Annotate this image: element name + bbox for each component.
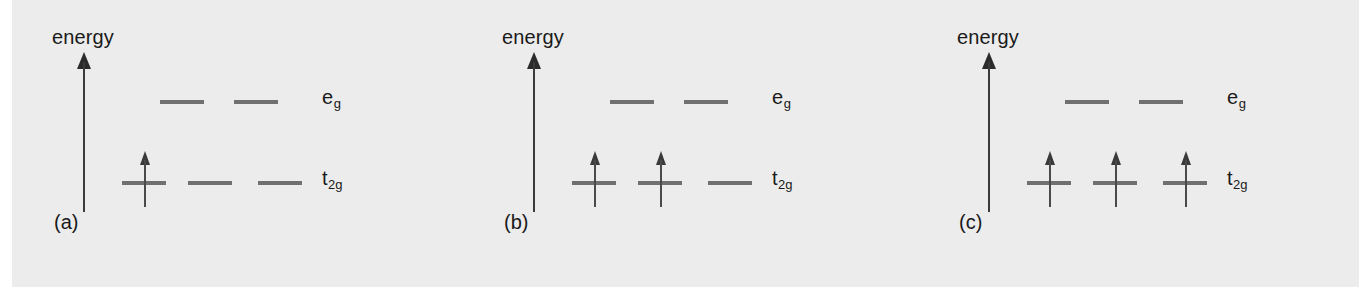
energy-axis-label-a: energy: [52, 26, 114, 49]
eg-set-label-sub-a: g: [334, 96, 341, 111]
t2g-set-label-text-c: t: [1227, 167, 1233, 189]
energy-axis-shaft: [533, 62, 535, 212]
energy-axis-b: [524, 52, 544, 212]
spin-arrow-shaft: [1049, 160, 1051, 207]
t2g-set-label-text-b: t: [772, 167, 778, 189]
energy-axis-shaft: [988, 62, 990, 212]
spin-arrow-shaft: [594, 160, 596, 207]
energy-axis-c: [979, 52, 999, 212]
electron-spin-up-arrow-t2g-1-b: [588, 151, 602, 207]
eg-set-label-text-a: e: [322, 86, 333, 108]
spin-arrow-shaft: [660, 160, 662, 207]
electron-spin-up-arrow-t2g-1-a: [138, 151, 152, 207]
t2g-set-label-sub-a: 2g: [328, 177, 342, 192]
t2g-orbital-line-3-b: [708, 181, 752, 185]
t2g-orbital-line-3-a: [258, 181, 302, 185]
eg-set-label-sub-c: g: [1239, 96, 1246, 111]
energy-axis-shaft: [83, 62, 85, 212]
eg-set-label-text-c: e: [1227, 86, 1238, 108]
panel-b: energy eg t2g (b): [462, 0, 917, 287]
energy-axis-label-c: energy: [957, 26, 1019, 49]
spin-arrow-shaft: [1185, 160, 1187, 207]
panel-letter-c: (c): [959, 211, 982, 234]
panel-letter-a: (a): [54, 211, 78, 234]
eg-orbital-line-1-c: [1065, 100, 1109, 104]
energy-axis-a: [74, 52, 94, 212]
eg-orbital-line-2-a: [234, 100, 278, 104]
eg-orbital-line-1-b: [610, 100, 654, 104]
eg-set-label-b: eg: [772, 86, 790, 109]
spin-arrow-shaft: [1115, 160, 1117, 207]
eg-set-label-a: eg: [322, 86, 340, 109]
eg-orbital-line-1-a: [160, 100, 204, 104]
electron-spin-up-arrow-t2g-3-c: [1179, 151, 1193, 207]
electron-spin-up-arrow-t2g-2-c: [1109, 151, 1123, 207]
crystal-field-splitting-figure: energy eg t2g (a) energy: [0, 0, 1365, 305]
panel-c: energy eg t2g (c): [917, 0, 1365, 287]
t2g-set-label-c: t2g: [1227, 167, 1247, 190]
eg-orbital-line-2-b: [684, 100, 728, 104]
t2g-orbital-line-2-a: [188, 181, 232, 185]
electron-spin-up-arrow-t2g-1-c: [1043, 151, 1057, 207]
t2g-set-label-sub-b: 2g: [778, 177, 792, 192]
t2g-set-label-sub-c: 2g: [1233, 177, 1247, 192]
panel-a: energy eg t2g (a): [12, 0, 467, 287]
eg-set-label-c: eg: [1227, 86, 1245, 109]
t2g-set-label-b: t2g: [772, 167, 792, 190]
energy-axis-label-b: energy: [502, 26, 564, 49]
electron-spin-up-arrow-t2g-2-b: [654, 151, 668, 207]
panel-letter-b: (b): [504, 211, 528, 234]
eg-set-label-text-b: e: [772, 86, 783, 108]
t2g-set-label-text-a: t: [322, 167, 328, 189]
eg-set-label-sub-b: g: [784, 96, 791, 111]
t2g-set-label-a: t2g: [322, 167, 342, 190]
eg-orbital-line-2-c: [1139, 100, 1183, 104]
spin-arrow-shaft: [144, 160, 146, 207]
